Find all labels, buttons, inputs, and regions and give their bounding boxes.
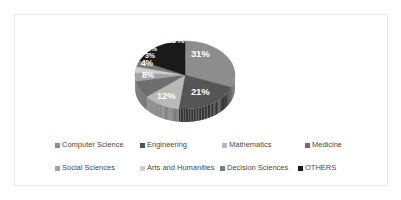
legend-item[interactable]: Decision Sciences	[220, 164, 288, 172]
legend-label: OTHERS	[305, 164, 336, 172]
slice-label-arts-and-humanities: 3%	[145, 52, 155, 59]
pie-chart: 31% 21% 12% 8% 4% 3% 3% 18%	[133, 23, 237, 131]
slice-label-decision-sciences: 3%	[147, 45, 157, 52]
legend-item[interactable]: Social Sciences	[55, 164, 115, 172]
legend-swatch	[220, 166, 225, 171]
legend-swatch	[305, 143, 310, 148]
chart-legend: Computer ScienceEngineeringMathematicsMe…	[15, 131, 389, 185]
legend-item[interactable]: Engineering	[140, 141, 187, 149]
legend-item[interactable]: Medicine	[305, 141, 342, 149]
slice-label-others: 18%	[166, 35, 184, 45]
legend-swatch	[140, 143, 145, 148]
legend-label: Engineering	[147, 141, 187, 149]
slice-label-medicine: 8%	[142, 71, 154, 80]
legend-label: Decision Sciences	[227, 164, 288, 172]
slice-label-social-sciences: 4%	[141, 59, 153, 68]
legend-label: Mathematics	[229, 141, 272, 149]
legend-label: Social Sciences	[62, 164, 115, 172]
legend-label: Arts and Humanities	[147, 164, 215, 172]
legend-item[interactable]: Arts and Humanities	[140, 164, 215, 172]
legend-swatch	[55, 143, 60, 148]
slice-label-engineering: 21%	[191, 87, 209, 97]
slice-label-mathematics: 12%	[157, 91, 175, 101]
legend-item[interactable]: Computer Science	[55, 141, 124, 149]
pie-chart-plot-area: 31% 21% 12% 8% 4% 3% 3% 18%	[15, 15, 389, 131]
chart-frame: 31% 21% 12% 8% 4% 3% 3% 18% Computer Sci…	[14, 14, 388, 186]
legend-swatch	[222, 143, 227, 148]
legend-label: Computer Science	[62, 141, 124, 149]
legend-row-2: Social SciencesArts and HumanitiesDecisi…	[15, 160, 389, 176]
legend-swatch	[140, 166, 145, 171]
legend-label: Medicine	[312, 141, 342, 149]
legend-item[interactable]: OTHERS	[298, 164, 336, 172]
legend-item[interactable]: Mathematics	[222, 141, 272, 149]
slice-label-computer-science: 31%	[191, 49, 209, 59]
legend-row-1: Computer ScienceEngineeringMathematicsMe…	[15, 137, 389, 153]
legend-swatch	[55, 166, 60, 171]
legend-swatch	[298, 166, 303, 171]
